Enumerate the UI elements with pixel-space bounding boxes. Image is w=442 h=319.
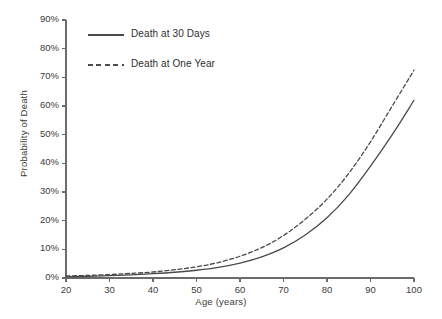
y-tick-label: 70% xyxy=(23,70,59,81)
legend-item-label: Death at One Year xyxy=(131,58,215,69)
legend-item-label: Death at 30 Days xyxy=(131,28,210,39)
chart-figure: Probability of Death Age (years) 0%10%20… xyxy=(0,0,442,319)
y-tick-label: 90% xyxy=(23,13,59,24)
chart-plot-area xyxy=(0,0,442,319)
data-series-group xyxy=(66,70,414,277)
series-line-1 xyxy=(66,70,414,276)
x-tick-label: 50 xyxy=(180,284,214,295)
y-tick-label: 30% xyxy=(23,185,59,196)
series-line-0 xyxy=(66,100,414,277)
y-tick-label: 10% xyxy=(23,242,59,253)
y-tick-label: 50% xyxy=(23,128,59,139)
x-tick-label: 60 xyxy=(223,284,257,295)
x-tick-label: 90 xyxy=(354,284,388,295)
y-tick-label: 80% xyxy=(23,42,59,53)
x-tick-label: 80 xyxy=(310,284,344,295)
axis-tick-marks xyxy=(62,20,414,282)
x-tick-label: 40 xyxy=(136,284,170,295)
x-axis-title: Age (years) xyxy=(0,296,442,307)
legend-swatches xyxy=(88,35,124,65)
y-tick-label: 40% xyxy=(23,156,59,167)
axis-lines xyxy=(66,20,414,278)
x-tick-label: 70 xyxy=(267,284,301,295)
x-tick-label: 20 xyxy=(49,284,83,295)
y-tick-label: 0% xyxy=(23,271,59,282)
x-tick-label: 30 xyxy=(93,284,127,295)
y-tick-label: 20% xyxy=(23,214,59,225)
x-tick-label: 100 xyxy=(397,284,431,295)
y-tick-label: 60% xyxy=(23,99,59,110)
